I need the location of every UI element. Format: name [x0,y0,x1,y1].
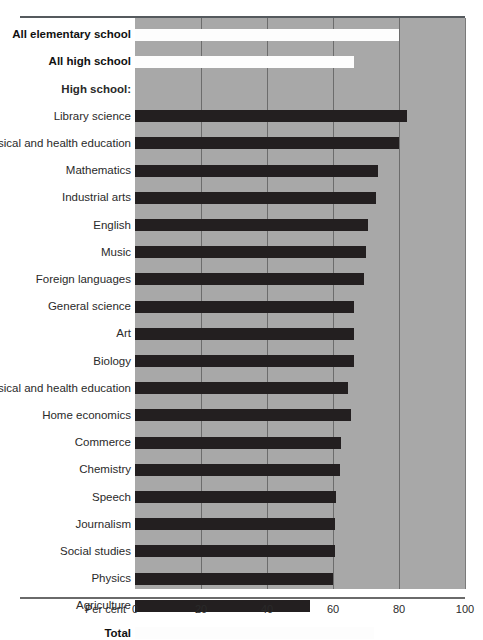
category-label: Home economics [0,409,131,422]
category-label: Biology [0,355,131,368]
category-label: Chemistry [0,463,131,476]
x-tick-label-20: 20 [195,603,207,615]
category-label: Men's physical and health education [0,382,131,395]
category-label: General science [0,300,131,313]
group-header-label: High school: [0,83,131,96]
category-label: Library science [0,110,131,123]
x-tick-label-60: 60 [327,603,339,615]
x-tick-label-100: 100 [456,603,474,615]
category-label: Industrial arts [0,191,131,204]
category-label: Art [0,327,131,340]
x-tick-label-0: 0 [132,603,138,615]
category-label: Women's physical and health education [0,137,131,150]
category-label: All elementary school [0,28,131,41]
category-label: English [0,219,131,232]
category-label: All high school [0,55,131,68]
category-label: Total [0,627,131,640]
category-label: Music [0,246,131,259]
category-label: Social studies [0,545,131,558]
category-label: Mathematics [0,164,131,177]
category-label: Speech [0,491,131,504]
x-tick-label-80: 80 [393,603,405,615]
x-axis-title: Per cent [85,603,126,615]
category-label: Journalism [0,518,131,531]
category-label: Foreign languages [0,273,131,286]
x-tick-label-40: 40 [261,603,273,615]
category-label: Physics [0,572,131,585]
category-label: Commerce [0,436,131,449]
x-axis-rule [20,597,465,599]
